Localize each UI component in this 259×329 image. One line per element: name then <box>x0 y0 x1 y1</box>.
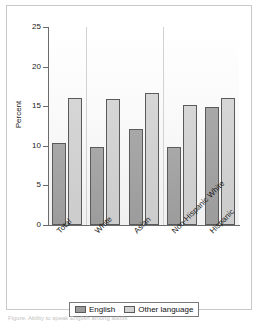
group-separator <box>86 27 87 225</box>
legend-item-other[interactable]: Other language <box>124 306 193 314</box>
y-tick-mark <box>43 225 48 226</box>
y-tick-label: 5 <box>17 181 41 189</box>
y-axis-title: Percent <box>14 80 23 150</box>
bar-english-white <box>90 147 104 225</box>
bar-english-hispanic <box>205 107 219 225</box>
figure-caption: Figure. Ability to speak English among a… <box>8 315 251 322</box>
legend-swatch-icon <box>124 306 135 313</box>
y-tick-mark <box>43 185 48 186</box>
y-tick-mark <box>43 67 48 68</box>
legend-label: Other language <box>138 306 193 314</box>
bar-other-language-white <box>106 99 120 225</box>
bar-other-language-hispanic <box>221 98 235 226</box>
group-separator <box>163 27 164 225</box>
y-tick-label: 0 <box>17 221 41 229</box>
figure-page: 0510152025 Percent TotalWhiteAsianNon-Hi… <box>0 0 259 329</box>
figure-frame: 0510152025 Percent TotalWhiteAsianNon-Hi… <box>6 5 252 310</box>
y-tick-label: 25 <box>17 23 41 31</box>
legend-swatch-icon <box>75 306 86 313</box>
bar-other-language-asian <box>145 93 159 225</box>
y-tick-mark <box>43 27 48 28</box>
legend-item-english[interactable]: English <box>75 306 115 314</box>
y-tick-label: 20 <box>17 63 41 71</box>
legend-label: English <box>89 306 115 314</box>
y-axis-line <box>48 27 49 226</box>
bar-english-asian <box>129 129 143 225</box>
bar-english-non-hispanic-white <box>167 147 181 225</box>
bar-other-language-total <box>68 98 82 226</box>
bar-english-total <box>52 143 66 225</box>
y-tick-mark <box>43 106 48 107</box>
y-tick-mark <box>43 146 48 147</box>
